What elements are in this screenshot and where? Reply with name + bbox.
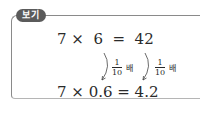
fraction-1-suffix: 배 [126, 62, 133, 73]
equation-line-2: 7 × 0.6 = 4.2 [57, 83, 158, 101]
fraction-1: 1 10 [112, 58, 122, 77]
fraction-2-suffix: 배 [169, 62, 176, 73]
fraction-2: 1 10 [155, 58, 165, 77]
